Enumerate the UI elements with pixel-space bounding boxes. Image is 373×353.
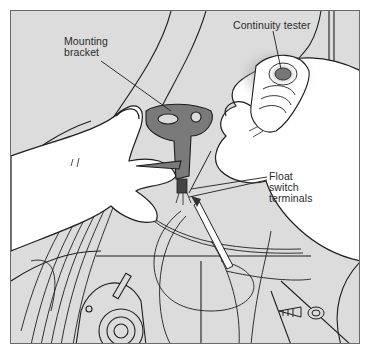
callout-text: Continuity tester	[233, 20, 311, 31]
illustration-frame: Mounting bracket Continuity tester Float…	[10, 10, 360, 344]
callout-continuity-tester: Continuity tester	[233, 20, 311, 31]
callout-text: bracket	[64, 47, 108, 58]
callout-text: terminals	[269, 193, 313, 204]
screw	[279, 307, 324, 319]
callout-mounting-bracket: Mounting bracket	[64, 36, 108, 58]
float-switch-terminals	[176, 179, 191, 205]
callout-float-switch-terminals: Float switch terminals	[269, 171, 313, 204]
